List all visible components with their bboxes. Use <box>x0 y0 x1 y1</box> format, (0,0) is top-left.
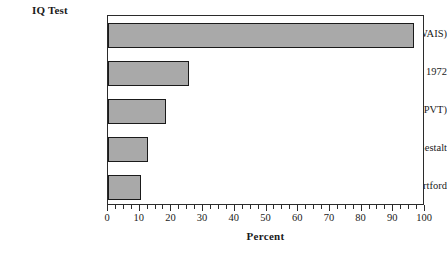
x-tick-minor <box>281 205 282 209</box>
x-axis-title: Percent <box>107 230 424 242</box>
x-tick-minor <box>289 205 290 209</box>
x-tick-minor <box>400 205 401 209</box>
x-tick-label: 50 <box>251 212 281 223</box>
x-tick-minor <box>162 205 163 209</box>
x-tick-major <box>170 205 171 211</box>
x-tick-label: 10 <box>124 212 154 223</box>
bar <box>108 61 189 86</box>
x-tick-minor <box>369 205 370 209</box>
x-tick-minor <box>226 205 227 209</box>
bar <box>108 175 141 200</box>
x-tick-minor <box>155 205 156 209</box>
category-axis-title: IQ Test <box>0 4 100 16</box>
x-tick-minor <box>178 205 179 209</box>
x-tick-minor <box>305 205 306 209</box>
x-tick-minor <box>147 205 148 209</box>
x-tick-major <box>329 205 330 211</box>
x-tick-label: 0 <box>92 212 122 223</box>
x-tick-major <box>139 205 140 211</box>
bar-chart: IQ Test WAIS-R (or WAIS)Stanford-Binet 1… <box>0 0 447 253</box>
x-tick-label: 80 <box>346 212 376 223</box>
x-tick-label: 70 <box>314 212 344 223</box>
x-tick-major <box>297 205 298 211</box>
x-tick-major <box>392 205 393 211</box>
x-tick-minor <box>353 205 354 209</box>
x-tick-label: 20 <box>155 212 185 223</box>
x-tick-major <box>202 205 203 211</box>
x-tick-minor <box>345 205 346 209</box>
bar <box>108 23 414 48</box>
x-tick-minor <box>408 205 409 209</box>
x-tick-minor <box>210 205 211 209</box>
x-tick-label: 40 <box>219 212 249 223</box>
x-tick-minor <box>273 205 274 209</box>
x-tick-minor <box>384 205 385 209</box>
x-tick-minor <box>131 205 132 209</box>
x-tick-major <box>424 205 425 211</box>
x-tick-minor <box>416 205 417 209</box>
x-tick-major <box>234 205 235 211</box>
x-tick-minor <box>313 205 314 209</box>
x-tick-major <box>361 205 362 211</box>
x-tick-minor <box>376 205 377 209</box>
x-tick-minor <box>337 205 338 209</box>
x-tick-minor <box>186 205 187 209</box>
bar <box>108 99 166 124</box>
x-tick-label: 30 <box>187 212 217 223</box>
x-tick-minor <box>242 205 243 209</box>
x-tick-minor <box>258 205 259 209</box>
x-tick-label: 100 <box>409 212 439 223</box>
x-tick-minor <box>321 205 322 209</box>
x-tick-minor <box>123 205 124 209</box>
x-tick-label: 60 <box>282 212 312 223</box>
x-tick-label: 90 <box>377 212 407 223</box>
x-tick-minor <box>194 205 195 209</box>
bar <box>108 137 148 162</box>
x-tick-major <box>266 205 267 211</box>
x-tick-minor <box>218 205 219 209</box>
plot-area <box>107 15 424 205</box>
x-tick-major <box>107 205 108 211</box>
x-tick-minor <box>115 205 116 209</box>
x-tick-minor <box>250 205 251 209</box>
